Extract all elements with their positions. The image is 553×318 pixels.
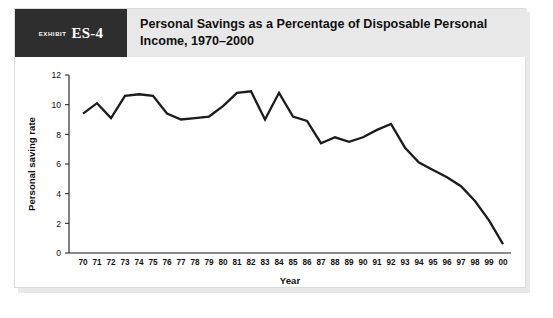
y-tick-label: 8: [56, 130, 61, 140]
y-tick-label: 2: [56, 219, 61, 229]
title-container: Personal Savings as a Percentage of Disp…: [127, 9, 527, 57]
x-tick-label: 95: [428, 258, 438, 267]
x-tick-label: 90: [358, 258, 368, 267]
x-tick-label: 00: [498, 258, 508, 267]
x-tick-label: 80: [218, 258, 228, 267]
x-tick-label: 72: [106, 258, 116, 267]
x-tick-label: 88: [330, 258, 340, 267]
x-tick-label: 86: [302, 258, 312, 267]
exhibit-number: ES-4: [72, 25, 104, 42]
y-tick-label: 12: [51, 70, 61, 80]
x-tick-label: 91: [372, 258, 382, 267]
x-tick-label: 71: [92, 258, 102, 267]
chart-title: Personal Savings as a Percentage of Disp…: [140, 16, 517, 49]
x-tick-label: 89: [344, 258, 354, 267]
x-axis-title: Year: [280, 275, 301, 286]
x-tick-label: 99: [484, 258, 494, 267]
y-tick-label: 0: [56, 248, 61, 258]
x-tick-label: 93: [400, 258, 410, 267]
exhibit-card: exhibit ES-4 Personal Savings as a Perce…: [14, 8, 526, 288]
x-axis: 7071727374757677787980818283848586878889…: [69, 253, 511, 267]
y-axis-title: Personal saving rate: [26, 117, 37, 211]
exhibit-badge: exhibit ES-4: [15, 9, 127, 57]
x-tick-label: 84: [274, 258, 284, 267]
x-tick-group: 7071727374757677787980818283848586878889…: [78, 258, 508, 267]
line-chart: 024681012 707172737475767778798081828384…: [15, 57, 527, 288]
x-tick-label: 75: [148, 258, 158, 267]
x-tick-label: 87: [316, 258, 326, 267]
x-tick-label: 94: [414, 258, 424, 267]
x-tick-label: 82: [246, 258, 256, 267]
x-tick-label: 79: [204, 258, 214, 267]
plot-region: 024681012 707172737475767778798081828384…: [15, 57, 527, 288]
x-tick-label: 83: [260, 258, 270, 267]
x-tick-label: 81: [232, 258, 242, 267]
x-tick-label: 85: [288, 258, 298, 267]
x-tick-label: 77: [176, 258, 186, 267]
x-tick-label: 92: [386, 258, 396, 267]
x-tick-label: 70: [78, 258, 88, 267]
y-tick-group: 024681012: [51, 70, 69, 258]
x-tick-label: 76: [162, 258, 172, 267]
x-tick-label: 97: [456, 258, 466, 267]
data-series-line: [83, 91, 503, 244]
x-tick-label: 73: [120, 258, 130, 267]
x-tick-label: 74: [134, 258, 144, 267]
y-tick-label: 10: [51, 100, 61, 110]
y-tick-label: 4: [56, 189, 61, 199]
x-tick-label: 96: [442, 258, 452, 267]
screenshot-root: exhibit ES-4 Personal Savings as a Perce…: [0, 0, 553, 318]
y-tick-label: 6: [56, 159, 61, 169]
x-tick-label: 78: [190, 258, 200, 267]
exhibit-header: exhibit ES-4 Personal Savings as a Perce…: [15, 9, 527, 57]
x-tick-label: 98: [470, 258, 480, 267]
exhibit-label: exhibit: [39, 28, 67, 38]
y-axis: 024681012: [51, 70, 69, 258]
